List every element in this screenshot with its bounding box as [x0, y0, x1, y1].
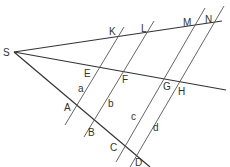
segment-label-d: d: [153, 122, 159, 133]
segment-label-b: b: [108, 98, 114, 109]
parallel-line-lfb: [84, 21, 154, 137]
segment-label-a: a: [78, 83, 84, 94]
point-label-e: E: [84, 68, 91, 79]
point-label-c: C: [110, 142, 117, 153]
point-label-k: K: [109, 26, 116, 37]
point-label-g: G: [163, 81, 171, 92]
segment-label-c: c: [131, 111, 136, 122]
point-label-n: N: [205, 14, 212, 25]
parallel-line-kea: [65, 27, 124, 125]
point-label-s: S: [3, 47, 10, 58]
point-label-l: L: [141, 23, 147, 34]
point-label-b: B: [88, 127, 95, 138]
point-label-d: D: [135, 157, 142, 167]
point-label-h: H: [178, 86, 185, 97]
parallel-line-mgc: [116, 8, 205, 162]
point-label-m: M: [183, 17, 191, 28]
intercept-theorem-diagram: S K L M N E F G H A B C D a b c d: [0, 0, 230, 167]
bottom-ray: [14, 52, 150, 167]
point-label-a: A: [64, 102, 71, 113]
point-label-f: F: [122, 74, 128, 85]
